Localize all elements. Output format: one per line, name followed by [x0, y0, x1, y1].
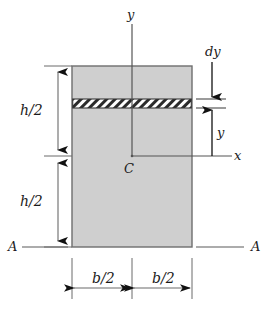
cross-section-diagram: y x C dy y h/2 h/2 b/2 b/2 A A: [0, 0, 271, 309]
label-axis-y: y: [127, 8, 134, 21]
label-height-lower: h/2: [20, 194, 43, 208]
label-axis-x: x: [234, 149, 241, 162]
label-centroid: C: [124, 162, 134, 175]
label-strip-distance: y: [217, 126, 224, 139]
label-height-upper: h/2: [20, 103, 43, 117]
label-width-right: b/2: [152, 271, 175, 285]
label-strip-thickness: dy: [205, 45, 221, 58]
label-section-right: A: [251, 240, 260, 253]
strip-dimension-group: [196, 62, 226, 156]
label-section-left: A: [8, 240, 17, 253]
height-dimension-group: [44, 66, 72, 247]
label-width-left: b/2: [92, 271, 115, 285]
centroid-marker: [131, 155, 134, 158]
diagram-canvas: [0, 0, 271, 309]
